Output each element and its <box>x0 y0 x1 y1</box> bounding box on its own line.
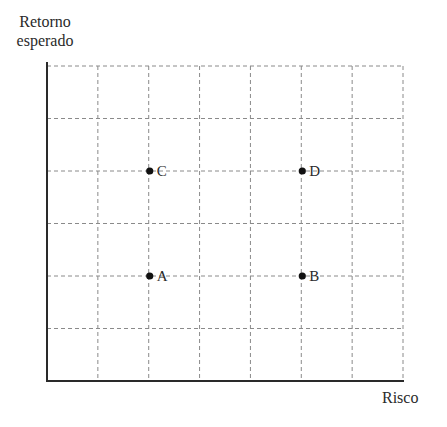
y-axis-label: Retorno esperado <box>7 12 83 50</box>
point-label-c: C <box>157 163 167 179</box>
data-point-b <box>299 272 306 279</box>
y-axis-label-line-2: esperado <box>7 31 83 50</box>
point-label-b: B <box>309 268 319 284</box>
grid-lines <box>47 66 403 381</box>
x-axis-label: Risco <box>382 388 418 407</box>
point-label-a: A <box>157 268 168 284</box>
point-label-d: D <box>309 163 320 179</box>
data-point-a <box>146 272 153 279</box>
data-point-d <box>299 167 306 174</box>
scatter-chart <box>0 0 447 427</box>
axes <box>46 62 404 382</box>
y-axis-label-line-1: Retorno <box>7 12 83 31</box>
data-point-c <box>146 167 153 174</box>
